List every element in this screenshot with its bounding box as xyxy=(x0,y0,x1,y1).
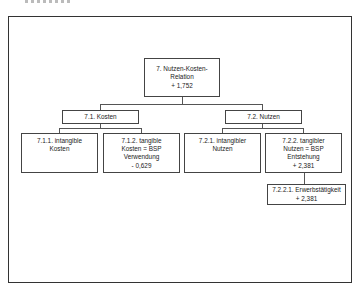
connector xyxy=(304,173,305,184)
node-value: + 2,381 xyxy=(296,195,318,203)
connector xyxy=(100,104,263,105)
node-text-line: Kosten xyxy=(50,145,70,153)
node-text-line: Entstehung xyxy=(287,153,319,161)
node-text-line: Relation xyxy=(170,73,193,81)
node-text-line: Kosten = BSP xyxy=(122,145,162,153)
node-text-line: 7.2.2.1. Erwerbstätigkeit xyxy=(272,186,341,194)
node-7-2-nutzen: 7.2. Nutzen xyxy=(225,110,302,124)
connector xyxy=(59,128,142,129)
node-text-line: Nutzen = BSP xyxy=(283,145,323,153)
node-value: + 1,752 xyxy=(171,82,193,90)
node-7-2-2-1-erwerbstaetigkeit: 7.2.2.1. Erwerbstätigkeit + 2,381 xyxy=(267,184,346,205)
node-7-nutzen-kosten-relation: 7. Nutzen-Kosten- Relation + 1,752 xyxy=(144,58,220,97)
node-7-1-2-tangible-kosten: 7.1.2. tangible Kosten = BSP Verwendung … xyxy=(103,133,180,173)
node-text-line: 7.2. Nutzen xyxy=(247,113,280,121)
node-7-1-kosten: 7.1. Kosten xyxy=(62,110,139,124)
node-7-2-2-tangibler-nutzen: 7.2.2. tangibler Nutzen = BSP Entstehung… xyxy=(265,133,342,173)
node-text-line: Verwendung xyxy=(124,153,160,161)
node-text-line: 7.1.2. tangible xyxy=(121,137,161,145)
node-text-line: 7. Nutzen-Kosten- xyxy=(156,65,208,73)
node-7-2-1-intangibler-nutzen: 7.2.1. intangibler Nutzen xyxy=(184,133,261,173)
node-value: - 0,629 xyxy=(132,162,152,170)
node-text-line: 7.1.1. intangible xyxy=(37,137,82,145)
node-text-line: 7.2.2. tangibler xyxy=(282,137,324,145)
node-text-line: 7.1. Kosten xyxy=(84,113,116,121)
node-value: + 2,381 xyxy=(293,162,315,170)
node-text-line: 7.2.1. intangibler xyxy=(199,137,246,145)
node-text-line: Nutzen xyxy=(212,145,232,153)
node-7-1-1-intangible-kosten: 7.1.1. intangible Kosten xyxy=(21,133,98,173)
cropped-text-remnant xyxy=(25,0,70,3)
connector xyxy=(222,128,304,129)
connector xyxy=(182,97,183,104)
